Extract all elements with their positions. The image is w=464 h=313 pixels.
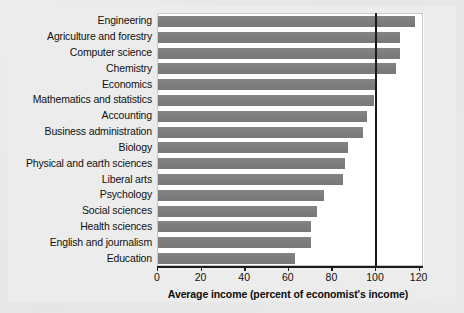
category-label: Social sciences <box>82 204 152 216</box>
category-label: Psychology <box>100 188 152 200</box>
x-axis-tick-label: 60 <box>282 271 294 283</box>
category-label: Chemistry <box>106 62 152 74</box>
x-axis-line <box>157 266 423 268</box>
category-label: Health sciences <box>80 220 152 232</box>
category-label: Mathematics and statistics <box>33 93 152 105</box>
category-label: Agriculture and forestry <box>47 30 152 42</box>
x-axis-tick-label: 0 <box>154 271 160 283</box>
x-axis-tick-label: 20 <box>195 271 207 283</box>
figure-container: EngineeringAgriculture and forestryCompu… <box>0 0 464 313</box>
x-axis-tick-label: 40 <box>238 271 250 283</box>
category-label: Computer science <box>70 46 152 58</box>
category-label: Physical and earth sciences <box>26 157 152 169</box>
reference-line-100 <box>375 13 377 266</box>
category-label: Economics <box>102 78 152 90</box>
x-axis-tick-label: 80 <box>326 271 338 283</box>
category-label: English and journalism <box>50 236 152 248</box>
category-label: Liberal arts <box>102 173 152 185</box>
category-label: Education <box>107 252 152 264</box>
category-label: Biology <box>119 141 152 153</box>
x-axis-tick-label: 120 <box>410 271 428 283</box>
x-axis-tick-label: 100 <box>366 271 384 283</box>
category-label: Business administration <box>45 125 152 137</box>
x-axis-title: Average income (percent of economist's i… <box>168 288 408 300</box>
category-label: Accounting <box>102 109 152 121</box>
category-label: Engineering <box>98 14 152 26</box>
category-axis-labels: EngineeringAgriculture and forestryCompu… <box>0 13 464 266</box>
